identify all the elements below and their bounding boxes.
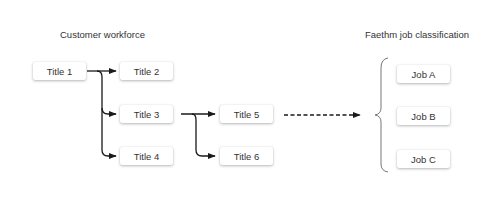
title-6-box: Title 6 bbox=[220, 147, 273, 165]
job-b-box: Job B bbox=[397, 107, 450, 125]
job-c-box: Job C bbox=[397, 150, 450, 168]
title-2-box: Title 2 bbox=[120, 62, 173, 80]
title-3-box: Title 3 bbox=[120, 105, 173, 123]
brace-icon bbox=[375, 58, 388, 172]
title-1-box: Title 1 bbox=[33, 62, 86, 80]
connector-lines bbox=[0, 0, 497, 204]
title-5-box: Title 5 bbox=[220, 105, 273, 123]
job-a-box: Job A bbox=[397, 65, 450, 83]
title-4-box: Title 4 bbox=[120, 147, 173, 165]
